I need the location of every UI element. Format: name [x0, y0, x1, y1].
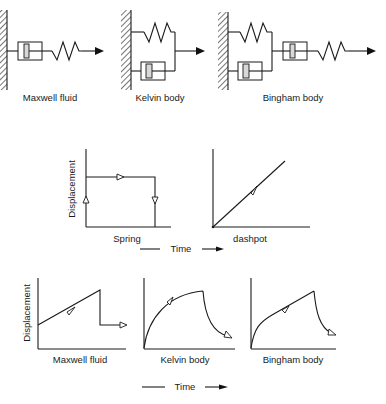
- dashpot-graph-label: dashpot: [233, 233, 267, 244]
- arrow-up-icon: [83, 196, 89, 203]
- spring-icon: [318, 42, 349, 60]
- spring-icon: [144, 23, 175, 42]
- kelvin-model: Kelvin body: [121, 10, 205, 103]
- maxwell-model: Maxwell fluid: [0, 10, 104, 103]
- rheology-diagram: Maxwell fluid Kelvin body: [0, 0, 386, 404]
- dashpot-icon: [141, 62, 165, 80]
- time-axis-indicator: Time: [140, 243, 224, 254]
- spring-icon: [52, 42, 82, 60]
- arrow-diagonal-icon: [224, 331, 232, 338]
- time-label: Time: [171, 243, 192, 254]
- spring-graph-label: Spring: [113, 233, 140, 244]
- arrow-head-icon: [219, 385, 228, 390]
- dashpot-icon: [283, 42, 307, 60]
- dashpot-icon: [238, 62, 262, 80]
- time-axis-indicator: Time: [142, 381, 228, 392]
- time-label: Time: [175, 381, 196, 392]
- dashpot-graph: dashpot: [212, 149, 310, 244]
- kelvin-graph-label: Kelvin body: [160, 354, 209, 365]
- wall-icon: [121, 10, 131, 90]
- arrow-right-icon: [117, 174, 124, 180]
- arrow-head-icon: [367, 47, 376, 55]
- bingham-model-label: Bingham body: [263, 92, 324, 103]
- kelvin-graph: Kelvin body: [144, 278, 235, 365]
- spring-icon: [240, 23, 272, 42]
- arrow-head-icon: [95, 47, 104, 55]
- arrow-down-icon: [152, 197, 158, 204]
- bingham-graph: Bingham body: [251, 278, 336, 365]
- wall-icon: [218, 12, 228, 90]
- y-axis-label: Displacement: [21, 284, 32, 342]
- arrow-diagonal-icon: [251, 186, 257, 195]
- spring-graph: Spring: [83, 149, 171, 244]
- arrow-right-icon: [120, 322, 127, 328]
- bingham-model: Bingham body: [218, 12, 376, 103]
- arrow-head-icon: [216, 247, 224, 252]
- kelvin-model-label: Kelvin body: [135, 92, 184, 103]
- maxwell-model-label: Maxwell fluid: [23, 92, 77, 103]
- bingham-graph-label: Bingham body: [263, 354, 324, 365]
- dashpot-icon: [18, 42, 42, 60]
- maxwell-graph-label: Maxwell fluid: [53, 354, 107, 365]
- wall-icon: [0, 10, 7, 90]
- y-axis-label: Displacement: [66, 160, 77, 218]
- maxwell-graph: Maxwell fluid: [38, 278, 127, 365]
- arrow-diagonal-icon: [328, 329, 336, 335]
- arrow-head-icon: [196, 47, 205, 55]
